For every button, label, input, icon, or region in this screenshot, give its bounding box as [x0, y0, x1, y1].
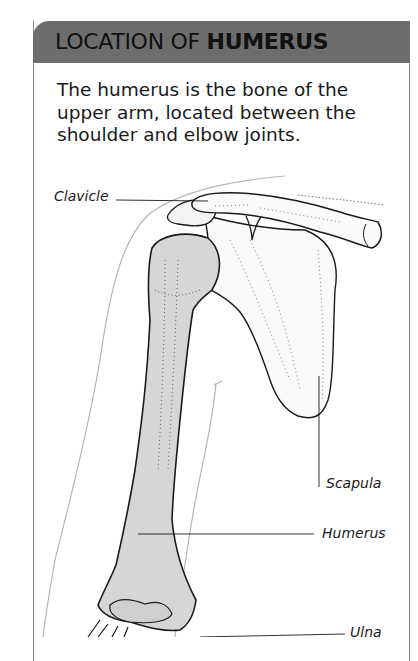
ulna-bone: [88, 620, 128, 637]
label-humerus: Humerus: [322, 525, 386, 541]
humerus-bone: [98, 234, 219, 630]
scapula-bone: [204, 215, 336, 418]
label-clavicle: Clavicle: [54, 188, 109, 204]
label-scapula: Scapula: [326, 475, 381, 491]
label-ulna: Ulna: [350, 624, 382, 640]
ulna-leader: [200, 634, 345, 637]
